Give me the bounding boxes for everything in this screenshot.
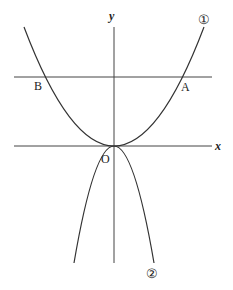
curve-2-label: ② xyxy=(146,266,158,281)
y-axis-label: y xyxy=(107,9,115,23)
point-b-label: B xyxy=(34,79,42,93)
point-a-label: A xyxy=(181,80,190,94)
curve-1-label: ① xyxy=(198,12,210,27)
parabola-diagram: y x O B A ① ② xyxy=(0,0,233,290)
x-axis-label: x xyxy=(214,139,221,153)
origin-label: O xyxy=(101,152,110,166)
